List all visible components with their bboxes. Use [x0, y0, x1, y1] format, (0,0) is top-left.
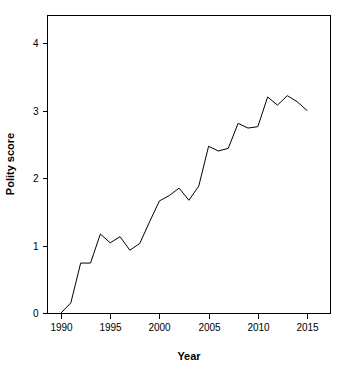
y-tick-label: 2: [33, 173, 39, 184]
y-tick-label: 0: [33, 308, 39, 319]
polity-score-line-chart: 01234 199019952000200520102015 Year Poli…: [0, 0, 347, 375]
plot-panel-border: [48, 16, 331, 314]
y-axis-title: Polity score: [4, 133, 16, 195]
x-tick-label: 2005: [198, 322, 221, 333]
x-tick-label: 1995: [99, 322, 122, 333]
x-tick-label: 2000: [148, 322, 171, 333]
x-axis-ticks: 199019952000200520102015: [50, 314, 319, 333]
polity-score-series-line: [61, 96, 307, 313]
x-tick-label: 2010: [247, 322, 270, 333]
x-axis-title: Year: [177, 350, 201, 362]
x-tick-label: 1990: [50, 322, 73, 333]
y-tick-label: 4: [33, 38, 39, 49]
y-axis-ticks: 01234: [33, 38, 48, 319]
chart-figure: 01234 199019952000200520102015 Year Poli…: [0, 0, 347, 375]
x-tick-label: 2015: [296, 322, 319, 333]
y-tick-label: 1: [33, 241, 39, 252]
y-tick-label: 3: [33, 106, 39, 117]
